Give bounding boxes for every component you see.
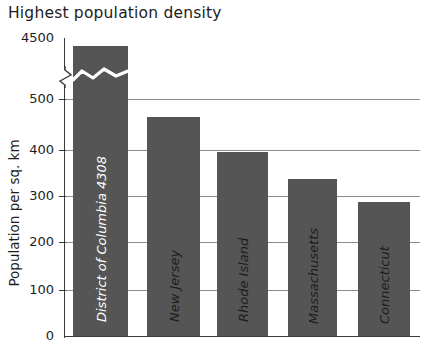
y-tick-label: 300 — [8, 189, 54, 202]
plot-area: Population per sq. km 4500 500 400 300 2… — [0, 0, 424, 358]
y-tick-label: 4500 — [8, 31, 54, 44]
bar-label: Connecticut — [377, 246, 392, 324]
bar-new-jersey[interactable]: New Jersey — [147, 117, 200, 336]
y-tick-label: 100 — [8, 283, 54, 296]
bar-connecticut[interactable]: Connecticut — [358, 202, 410, 336]
bar-label: New Jersey — [166, 250, 181, 322]
chart-container: Highest population density Population pe… — [0, 0, 424, 358]
y-axis-line-lower — [64, 84, 65, 338]
bar-label: District of Columbia 4308 — [93, 156, 108, 322]
y-tick-label: 400 — [8, 143, 54, 156]
y-axis-line-upper — [64, 38, 65, 70]
y-tick-label: 200 — [8, 235, 54, 248]
bar-label: Massachusetts — [305, 228, 320, 324]
y-tick-label: 500 — [8, 92, 54, 105]
axis-break-zigzag-icon — [58, 66, 74, 88]
bar-label: Rhode Island — [235, 238, 250, 322]
bar-rhode-island[interactable]: Rhode Island — [217, 152, 268, 336]
bar-massachusetts[interactable]: Massachusetts — [288, 179, 337, 336]
y-tick-label: 0 — [8, 329, 54, 342]
x-axis-line — [64, 336, 420, 337]
bar-district-of-columbia[interactable]: District of Columbia 4308 — [73, 46, 128, 336]
